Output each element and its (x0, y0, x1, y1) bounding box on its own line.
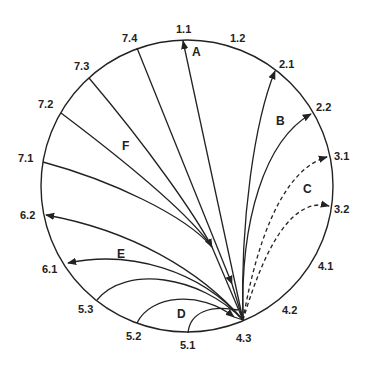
group-label-d: D (177, 307, 186, 321)
group-label-f: F (122, 139, 129, 153)
point-label-1-2: 1.2 (230, 32, 245, 44)
group-label-a: A (192, 45, 201, 59)
arrow-b-2-2 (243, 114, 311, 320)
group-label-b: B (276, 114, 285, 128)
line-f-7-3 (89, 78, 212, 247)
arrow-a-1-1 (183, 41, 243, 320)
point-label-7-4: 7.4 (122, 32, 138, 44)
point-label-4-2: 4.2 (282, 304, 297, 316)
point-label-3-2: 3.2 (334, 203, 349, 215)
arrow-c-3-1 (243, 157, 327, 320)
point-label-5-1: 5.1 (180, 339, 195, 351)
line-f-7-1 (43, 162, 212, 247)
point-label-5-3: 5.3 (78, 303, 93, 315)
arrow-b-2-1 (243, 71, 275, 320)
arrow-e-6-1 (68, 259, 243, 320)
line-f-7-4 (137, 48, 232, 284)
arrow-e-6-2 (46, 215, 243, 320)
group-label-e: E (117, 247, 125, 261)
point-labels: 1.11.22.12.23.13.24.14.24.35.15.25.36.16… (18, 23, 349, 351)
transition-diagram: 1.11.22.12.23.13.24.14.24.35.15.25.36.16… (0, 0, 370, 370)
point-label-2-2: 2.2 (316, 101, 331, 113)
diagram-canvas: 1.11.22.12.23.13.24.14.24.35.15.25.36.16… (0, 0, 370, 370)
point-label-6-2: 6.2 (20, 209, 35, 221)
point-label-6-1: 6.1 (42, 263, 57, 275)
point-label-4-3: 4.3 (236, 332, 251, 344)
point-label-7-3: 7.3 (74, 60, 89, 72)
group-label-c: C (303, 182, 312, 196)
point-label-2-1: 2.1 (279, 58, 294, 70)
point-label-5-2: 5.2 (126, 330, 141, 342)
point-label-4-1: 4.1 (318, 260, 333, 272)
point-label-3-1: 3.1 (334, 150, 349, 162)
point-label-7-1: 7.1 (18, 152, 33, 164)
point-label-1-1: 1.1 (176, 23, 191, 35)
point-label-7-2: 7.2 (38, 98, 53, 110)
